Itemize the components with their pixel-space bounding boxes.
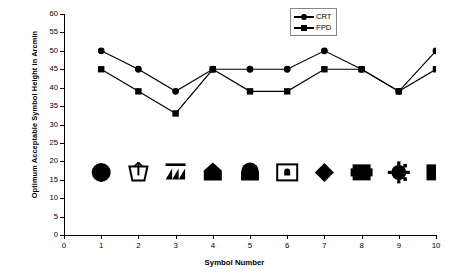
plot-area: 051015202530354045505560 012345678910 CR… <box>64 14 436 236</box>
data-point-crt-3 <box>172 88 179 95</box>
legend-label-fpd: FPD <box>316 23 331 32</box>
data-point-fpd-3 <box>172 110 178 116</box>
legend-item-crt: CRT <box>294 11 331 22</box>
y-tick-label: 60 <box>50 10 58 18</box>
data-point-fpd-5 <box>247 88 253 94</box>
data-point-crt-2 <box>135 66 142 73</box>
x-tick-mark <box>436 235 437 239</box>
data-point-fpd-4 <box>210 66 216 72</box>
data-point-crt-5 <box>247 66 254 73</box>
y-tick-label: 10 <box>50 194 58 202</box>
y-tick-label: 40 <box>50 84 58 92</box>
series-line-fpd <box>101 69 436 113</box>
legend: CRT FPD <box>290 8 337 36</box>
data-point-crt-1 <box>98 47 105 54</box>
y-tick-label: 45 <box>50 65 58 73</box>
series-line-crt <box>101 51 436 92</box>
x-tick-label: 5 <box>248 242 252 250</box>
y-tick-label: 50 <box>50 47 58 55</box>
x-tick-label: 8 <box>359 242 363 250</box>
y-tick-label: 5 <box>54 213 58 221</box>
data-point-fpd-1 <box>98 66 104 72</box>
x-axis-title: Symbol Number <box>0 258 469 267</box>
y-axis-title: Optimum Acceptable Symbol Height in Arcm… <box>30 15 39 215</box>
x-tick-label: 7 <box>322 242 326 250</box>
y-tick-label: 55 <box>50 29 58 37</box>
data-point-crt-7 <box>321 47 328 54</box>
data-point-fpd-10 <box>433 66 436 72</box>
y-tick-label: 30 <box>50 121 58 129</box>
x-tick-label: 10 <box>432 242 441 250</box>
data-series-layer <box>64 14 436 236</box>
data-point-fpd-7 <box>321 66 327 72</box>
x-tick-label: 4 <box>211 242 215 250</box>
chart-container: Optimum Acceptable Symbol Height in Arcm… <box>0 0 469 277</box>
x-tick-label: 1 <box>99 242 103 250</box>
data-point-fpd-9 <box>396 88 402 94</box>
y-tick-label: 20 <box>50 158 58 166</box>
y-tick-label: 35 <box>50 102 58 110</box>
legend-square-marker-icon <box>294 22 314 33</box>
x-tick-label: 3 <box>173 242 177 250</box>
data-point-fpd-2 <box>135 88 141 94</box>
legend-circle-marker-icon <box>294 11 314 22</box>
x-tick-label: 9 <box>397 242 401 250</box>
y-tick-label: 0 <box>54 231 58 239</box>
y-tick-label: 15 <box>50 176 58 184</box>
x-tick-label: 2 <box>136 242 140 250</box>
x-tick-label: 0 <box>62 242 66 250</box>
data-point-fpd-6 <box>284 88 290 94</box>
legend-label-crt: CRT <box>316 12 331 21</box>
data-point-crt-6 <box>284 66 291 73</box>
legend-item-fpd: FPD <box>294 22 331 33</box>
y-tick-label: 25 <box>50 139 58 147</box>
data-point-fpd-8 <box>358 66 364 72</box>
x-tick-label: 6 <box>285 242 289 250</box>
